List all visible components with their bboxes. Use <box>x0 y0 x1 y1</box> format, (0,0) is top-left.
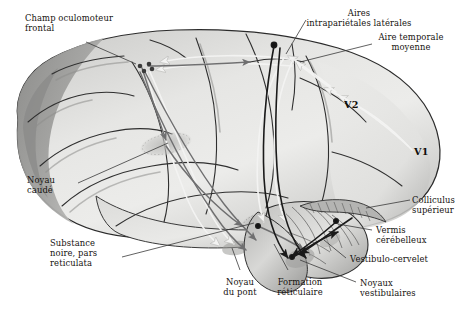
label-frontal-eye-field: Champ oculomoteur frontal <box>25 13 113 33</box>
fef-dot-3 <box>147 62 152 67</box>
label-reticular-formation: Formation réticulaire <box>268 277 332 297</box>
fef-dot-4 <box>150 67 155 72</box>
label-middle-temporal: Aire temporale moyenne <box>368 32 454 52</box>
pathway-origin-dot-1 <box>271 42 276 47</box>
label-pontine-nucleus: Noyau du pont <box>212 277 268 297</box>
label-vestibulocerebellum: Vestibulo-cervelet <box>350 254 428 264</box>
label-superior-colliculus: Colliculus supérieur <box>412 195 455 215</box>
fef-dot-1 <box>138 64 143 69</box>
label-vestibular-nuclei: Noyaux vestibulaires <box>360 278 416 298</box>
pathway-node-vestibular <box>290 255 294 259</box>
area-marker-v2: V2 <box>344 99 359 110</box>
fef-dot-2 <box>142 69 147 74</box>
label-substantia-nigra: Substance noire, pars reticulata <box>50 238 97 269</box>
pathway-node-snpr <box>256 224 260 228</box>
area-marker-v1: V1 <box>414 146 429 157</box>
pathway-node-vermis <box>334 219 338 223</box>
label-lateral-intraparietal: Aires intrapariétales latérales <box>300 8 418 28</box>
label-caudate-nucleus: Noyau caudé <box>27 175 55 195</box>
label-cerebellar-vermis: Vermis cérébelleux <box>376 225 426 245</box>
